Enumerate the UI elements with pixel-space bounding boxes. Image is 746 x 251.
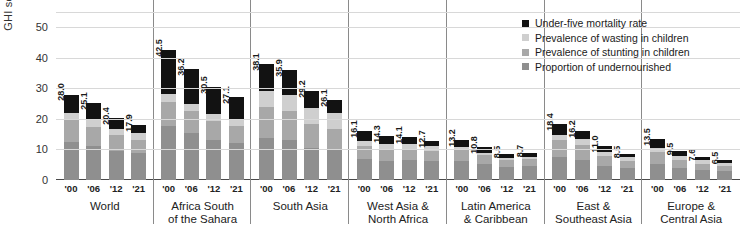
bar-column[interactable]: 6.5 xyxy=(717,12,732,180)
bar-column[interactable]: 14.3 xyxy=(379,12,394,180)
stacked-bar[interactable]: 16.1 xyxy=(357,131,372,180)
x-axis-group: '00'06'12'21Africa Southof the Sahara xyxy=(154,180,252,240)
bar-segment-stunting xyxy=(64,120,79,141)
bar-column[interactable]: 17.9 xyxy=(131,12,146,180)
stacked-bar[interactable]: 27.1 xyxy=(229,97,244,180)
x-axis-group: '00'06'12'21East &Southeast Asia xyxy=(545,180,643,240)
bar-column[interactable]: 26.1 xyxy=(327,12,342,180)
legend: Under-five mortality ratePrevalence of w… xyxy=(522,16,690,74)
stacked-bar[interactable]: 25.1 xyxy=(86,103,101,180)
bar-column[interactable]: 30.5 xyxy=(206,12,221,180)
bar-segment-undernourished xyxy=(402,160,417,180)
x-axis-tick-label: '21 xyxy=(522,183,537,194)
x-axis-tick-label: '06 xyxy=(282,183,297,194)
bar-group: 42.536.230.527.1 xyxy=(154,12,252,180)
bar-column[interactable]: 36.2 xyxy=(184,12,199,180)
stacked-bar[interactable]: 8.5 xyxy=(499,154,514,180)
y-axis-tick-label: 0 xyxy=(22,174,48,186)
bar-segment-undernourished xyxy=(327,150,342,180)
bar-segment-undernourished xyxy=(304,148,319,180)
stacked-bar[interactable]: 30.5 xyxy=(206,87,221,180)
stacked-bar[interactable]: 17.9 xyxy=(131,125,146,180)
stacked-bar[interactable]: 38.1 xyxy=(259,64,274,180)
stacked-bar[interactable]: 26.1 xyxy=(327,100,342,180)
x-axis-tick-label: '06 xyxy=(477,183,492,194)
stacked-bar[interactable]: 8.7 xyxy=(522,153,537,180)
gridline xyxy=(56,12,740,13)
bar-value-label: 38.1 xyxy=(256,53,266,71)
bar-column[interactable]: 29.2 xyxy=(304,12,319,180)
bar-column[interactable]: 42.5 xyxy=(161,12,176,180)
bar-column[interactable]: 8.5 xyxy=(499,12,514,180)
x-axis-tick-label: '21 xyxy=(131,183,146,194)
bar-value-label: 16.2 xyxy=(572,120,582,138)
bar-column[interactable]: 14.1 xyxy=(402,12,417,180)
x-axis-tick-label: '00 xyxy=(161,183,176,194)
x-axis-group-label: Africa Southof the Sahara xyxy=(154,200,252,226)
bar-segment-stunting xyxy=(282,111,297,140)
bar-column[interactable]: 7.6 xyxy=(695,12,710,180)
bar-segment-undernourished xyxy=(522,166,537,180)
stacked-bar[interactable]: 11.0 xyxy=(597,146,612,180)
legend-item[interactable]: Prevalence of wasting in children xyxy=(522,31,690,46)
legend-item[interactable]: Prevalence of stunting in children xyxy=(522,45,690,60)
stacked-bar[interactable]: 13.2 xyxy=(454,140,469,180)
stacked-bar[interactable]: 16.2 xyxy=(575,131,590,180)
bar-segment-stunting xyxy=(206,121,221,140)
y-axis-tick-label: 50 xyxy=(22,21,48,33)
bar-column[interactable]: 13.2 xyxy=(454,12,469,180)
stacked-bar[interactable]: 13.5 xyxy=(650,139,665,180)
stacked-bar[interactable]: 28.0 xyxy=(64,94,79,180)
gridline xyxy=(56,149,740,150)
bar-segment-undernourished xyxy=(575,160,590,180)
bar-segment-undernourished xyxy=(454,161,469,180)
stacked-bar[interactable]: 14.3 xyxy=(379,136,394,180)
bar-segment-wasting xyxy=(282,95,297,111)
bar-column[interactable]: 12.7 xyxy=(424,12,439,180)
bar-segment-stunting xyxy=(259,107,274,139)
legend-swatch xyxy=(522,20,529,27)
bar-segment-undernourished xyxy=(86,146,101,180)
x-axis-year-ticks: '00'06'12'21 xyxy=(545,180,643,194)
bar-column[interactable]: 28.0 xyxy=(64,12,79,180)
bar-segment-undernourished xyxy=(379,161,394,180)
legend-item[interactable]: Proportion of undernourished xyxy=(522,60,690,75)
bar-value-label: 16.1 xyxy=(354,120,364,138)
bar-segment-stunting xyxy=(357,146,372,160)
x-axis-tick-label: '06 xyxy=(379,183,394,194)
stacked-bar[interactable]: 29.2 xyxy=(304,91,319,180)
bar-column[interactable]: 10.8 xyxy=(477,12,492,180)
bar-segment-stunting xyxy=(379,149,394,161)
stacked-bar[interactable]: 10.8 xyxy=(477,147,492,180)
stacked-bar[interactable]: 9.5 xyxy=(672,151,687,180)
bar-segment-wasting xyxy=(259,91,274,107)
bar-value-label: 10.8 xyxy=(474,136,484,154)
legend-swatch xyxy=(522,34,529,41)
bar-segment-undernourished xyxy=(424,161,439,180)
x-axis-year-ticks: '00'06'12'21 xyxy=(251,180,349,194)
stacked-bar[interactable]: 35.9 xyxy=(282,70,297,180)
bar-column[interactable]: 16.1 xyxy=(357,12,372,180)
bar-column[interactable]: 38.1 xyxy=(259,12,274,180)
bar-segment-stunting xyxy=(184,111,199,133)
stacked-bar[interactable]: 42.5 xyxy=(161,50,176,180)
stacked-bar[interactable]: 7.6 xyxy=(695,157,710,180)
stacked-bar[interactable]: 36.2 xyxy=(184,69,199,180)
x-axis-tick-label: '21 xyxy=(424,183,439,194)
bar-segment-stunting xyxy=(161,102,176,126)
x-axis-year-ticks: '00'06'12'21 xyxy=(56,180,154,194)
x-axis-year-ticks: '00'06'12'21 xyxy=(447,180,545,194)
stacked-bar[interactable]: 14.1 xyxy=(402,137,417,180)
legend-item[interactable]: Under-five mortality rate xyxy=(522,16,690,31)
bar-column[interactable]: 27.1 xyxy=(229,12,244,180)
bar-column[interactable]: 20.4 xyxy=(109,12,124,180)
legend-label: Proportion of undernourished xyxy=(535,61,671,73)
bar-column[interactable]: 25.1 xyxy=(86,12,101,180)
stacked-bar[interactable]: 12.7 xyxy=(424,141,439,180)
stacked-bar[interactable]: 18.4 xyxy=(552,124,567,180)
bar-column[interactable]: 35.9 xyxy=(282,12,297,180)
stacked-bar[interactable]: 6.5 xyxy=(717,160,732,180)
stacked-bar[interactable]: 8.5 xyxy=(620,154,635,180)
bar-segment-stunting xyxy=(327,129,342,150)
legend-label: Prevalence of wasting in children xyxy=(535,32,689,44)
